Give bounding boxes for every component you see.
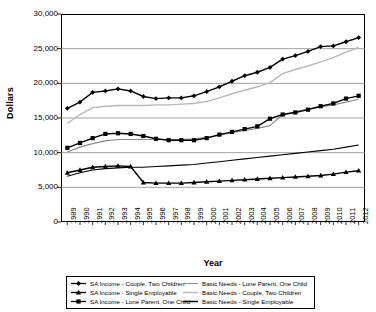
legend-item-label: Basic Needs - Single Employable bbox=[202, 298, 293, 305]
legend-item-label: SA Income - Single Employable bbox=[90, 289, 177, 296]
x-tick-label: 2000 bbox=[210, 214, 218, 224]
x-tick-label: 2005 bbox=[273, 214, 281, 224]
x-tick-label: 1999 bbox=[197, 214, 205, 224]
x-tick-label: 1994 bbox=[134, 214, 142, 224]
x-tick-label: 1995 bbox=[146, 214, 154, 224]
legend-item[interactable]: Basic Needs - Couple, Two Children bbox=[182, 288, 311, 297]
x-tick-label: 2007 bbox=[298, 214, 306, 224]
x-tick-label: 2010 bbox=[336, 214, 344, 224]
x-tick-label: 2012 bbox=[362, 214, 370, 224]
legend-item[interactable]: SA Income - Lone Parent, One Child bbox=[70, 297, 178, 306]
legend-item[interactable]: Basic Needs - Lone Parent, One Child bbox=[182, 279, 311, 288]
y-tick-label: 10,000 bbox=[2, 149, 58, 157]
x-tick-label: 1989 bbox=[70, 214, 78, 224]
x-tick-label: 1992 bbox=[108, 214, 116, 224]
legend-swatch-icon bbox=[182, 288, 199, 297]
x-tick-label: 2011 bbox=[349, 214, 357, 224]
x-tick-label: 1990 bbox=[83, 214, 91, 224]
y-tick-label: 30,000 bbox=[2, 10, 58, 18]
y-tick-label: 5,000 bbox=[2, 183, 58, 191]
x-tick-label: 2001 bbox=[222, 214, 230, 224]
line-chart: Dollars 30,00025,00020,00015,00010,0005,… bbox=[0, 0, 376, 312]
x-tick-label: 1998 bbox=[184, 214, 192, 224]
legend-item[interactable]: SA Income - Single Employable bbox=[70, 288, 178, 297]
plot-area bbox=[61, 14, 365, 222]
legend-swatch-icon bbox=[70, 288, 87, 297]
y-tick-label: 20,000 bbox=[2, 79, 58, 87]
y-tick-label: 25,000 bbox=[2, 45, 58, 53]
x-tick-label: 2003 bbox=[248, 214, 256, 224]
legend-swatch-icon bbox=[182, 297, 199, 306]
x-tick-label: 1993 bbox=[121, 214, 129, 224]
y-tick-label: 15,000 bbox=[2, 114, 58, 122]
legend-item-label: SA Income - Lone Parent, One Child bbox=[90, 298, 190, 305]
legend-item[interactable]: Basic Needs - Single Employable bbox=[182, 297, 311, 306]
x-tick-label: 2004 bbox=[260, 214, 268, 224]
x-tick-label: 1997 bbox=[172, 214, 180, 224]
legend-item-label: SA Income - Couple, Two Children bbox=[90, 280, 184, 287]
legend-item-label: Basic Needs - Lone Parent, One Child bbox=[202, 280, 307, 287]
x-tick-label: 2006 bbox=[286, 214, 294, 224]
x-tick-label: 1991 bbox=[96, 214, 104, 224]
x-tick-label: 2009 bbox=[324, 214, 332, 224]
x-axis-title: Year bbox=[61, 258, 365, 268]
legend-column-right: Basic Needs - Lone Parent, One ChildBasi… bbox=[182, 279, 311, 306]
legend-swatch-icon bbox=[182, 279, 199, 288]
legend-swatch-icon bbox=[70, 279, 87, 288]
legend-column-left: SA Income - Couple, Two ChildrenSA Incom… bbox=[70, 279, 178, 306]
y-tick-label: 0 bbox=[2, 218, 58, 226]
legend-item-label: Basic Needs - Couple, Two Children bbox=[202, 289, 301, 296]
legend-item[interactable]: SA Income - Couple, Two Children bbox=[70, 279, 178, 288]
x-tick-label: 2002 bbox=[235, 214, 243, 224]
x-tick-label: 1996 bbox=[159, 214, 167, 224]
chart-legend: SA Income - Couple, Two ChildrenSA Incom… bbox=[66, 276, 315, 309]
x-tick-label: 2008 bbox=[311, 214, 319, 224]
legend-swatch-icon bbox=[70, 297, 87, 306]
